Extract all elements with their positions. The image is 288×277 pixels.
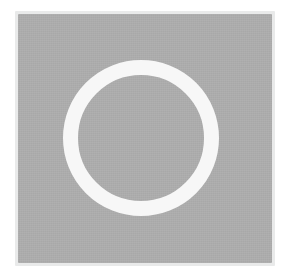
gray-square-plate	[18, 14, 272, 263]
image-canvas	[0, 0, 288, 277]
plate-texture-overlay	[18, 14, 272, 263]
